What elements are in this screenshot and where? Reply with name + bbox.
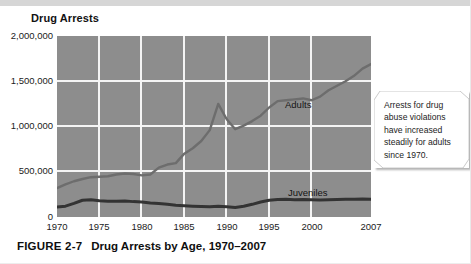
x-tick-2007: 2007 bbox=[355, 221, 387, 232]
page-top-band-highlight bbox=[0, 6, 471, 9]
x-tick-1990: 1990 bbox=[211, 221, 243, 232]
callout-text: Arrests for drug abuse violations have i… bbox=[384, 99, 464, 161]
figure-container: Drug Arrests 2,000,000 1,500,000 1,000,0… bbox=[0, 0, 471, 264]
line-juveniles bbox=[57, 199, 371, 207]
x-tick-1980: 1980 bbox=[126, 221, 158, 232]
figure-caption: FIGURE 2-7Drug Arrests by Age, 1970–2007 bbox=[17, 240, 266, 252]
figure-caption-title: Drug Arrests by Age, 1970–2007 bbox=[91, 240, 266, 252]
y-tick-1000000: 1,000,000 bbox=[11, 121, 53, 131]
x-tick-1995: 1995 bbox=[253, 221, 285, 232]
y-tick-500000: 500,000 bbox=[19, 166, 53, 176]
line-adults bbox=[57, 64, 371, 188]
x-tick-1970: 1970 bbox=[41, 221, 73, 232]
x-tick-1985: 1985 bbox=[168, 221, 200, 232]
figure-caption-label: FIGURE 2-7 bbox=[17, 240, 82, 252]
y-tick-1500000: 1,500,000 bbox=[11, 76, 53, 86]
series-label-juveniles: Juveniles bbox=[288, 187, 328, 198]
series-label-adults: Adults bbox=[285, 99, 311, 110]
plot-area: Adults Juveniles bbox=[57, 36, 371, 217]
x-tick-1975: 1975 bbox=[83, 221, 115, 232]
y-tick-2000000: 2,000,000 bbox=[11, 31, 53, 41]
callout-box: Arrests for drug abuse violations have i… bbox=[374, 91, 469, 168]
x-tick-2000: 2000 bbox=[296, 221, 328, 232]
